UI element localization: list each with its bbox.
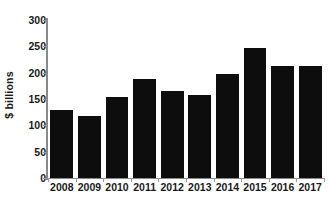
bar (271, 66, 294, 178)
y-axis-tick-label: 150 (16, 94, 46, 105)
y-axis-tick-label: 300 (16, 15, 46, 26)
y-axis-tick-mark (43, 73, 47, 74)
bar (106, 97, 129, 178)
plot-area (48, 20, 324, 178)
x-axis-tick-label: 2009 (76, 182, 104, 193)
y-axis-title-text: $ billions (3, 71, 15, 119)
bar (299, 66, 322, 178)
bar (50, 110, 73, 178)
x-axis-tick-label: 2011 (131, 182, 159, 193)
y-axis-tick-mark (43, 178, 47, 179)
y-axis-tick-label: 100 (16, 120, 46, 131)
x-axis-tick-mark (324, 178, 325, 182)
bar (78, 116, 101, 178)
bar (133, 79, 156, 178)
x-axis-tick-label: 2016 (269, 182, 297, 193)
x-axis-tick-label: 2012 (158, 182, 186, 193)
y-axis-tick-label: 0 (16, 173, 46, 184)
y-axis-tick-labels: 050100150200250300 (16, 0, 46, 206)
x-axis-tick-label: 2014 (214, 182, 242, 193)
x-axis-tick-label: 2013 (186, 182, 214, 193)
bar (188, 95, 211, 178)
bar (216, 74, 239, 178)
y-axis-tick-mark (43, 46, 47, 47)
y-axis-tick-label: 200 (16, 67, 46, 78)
bar (161, 91, 184, 178)
x-axis-tick-labels: 2008200920102011201220132014201520162017 (48, 180, 324, 200)
y-axis-tick-label: 250 (16, 41, 46, 52)
x-axis-tick-label: 2015 (241, 182, 269, 193)
x-axis-tick-label: 2010 (103, 182, 131, 193)
bar (244, 48, 267, 178)
y-axis-tick-mark (43, 152, 47, 153)
y-axis-tick-mark (43, 20, 47, 21)
y-axis-tick-mark (43, 125, 47, 126)
y-axis-tick-label: 50 (16, 146, 46, 157)
y-axis-tick-mark (43, 99, 47, 100)
x-axis-tick-label: 2008 (48, 182, 76, 193)
bar-chart: $ billions 050100150200250300 2008200920… (0, 0, 329, 206)
x-axis-tick-label: 2017 (296, 182, 324, 193)
